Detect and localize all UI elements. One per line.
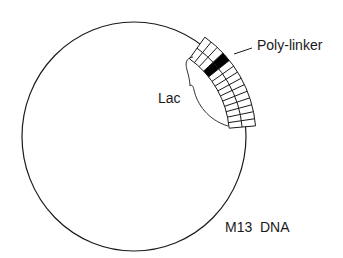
lac-label: Lac: [158, 91, 181, 105]
lac-band-background: [189, 37, 255, 128]
polylinker-label: Poly-linker: [257, 38, 322, 52]
m13-dna-label: M13 DNA: [225, 220, 290, 234]
lac-region-block: [189, 37, 255, 128]
polylinker-leader-line: [234, 48, 252, 54]
